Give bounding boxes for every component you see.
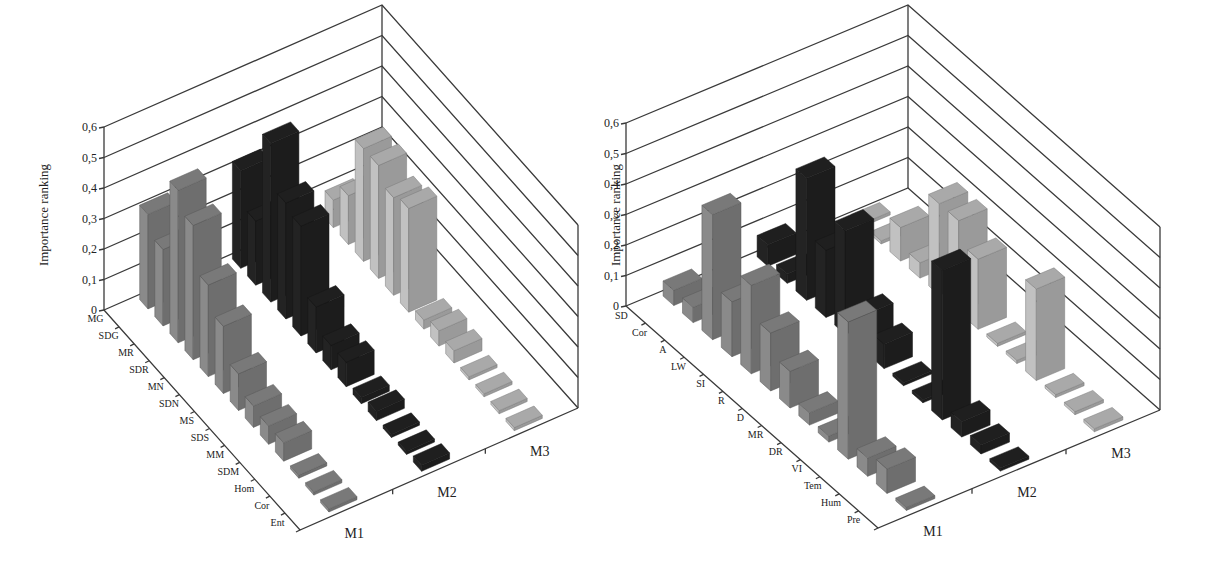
bar-m3-mr [987, 322, 1026, 346]
category-tick [680, 357, 684, 359]
category-label: Hum [821, 497, 841, 508]
bar-side [978, 247, 1006, 329]
bar-face [760, 324, 771, 391]
bar-m3-d [968, 238, 1007, 329]
y-tick-label: 0,5 [82, 151, 97, 165]
category-tick [816, 477, 820, 479]
category-tick [777, 443, 781, 445]
bar-m1-ent [321, 487, 357, 512]
category-tick [700, 374, 704, 376]
category-tick [874, 528, 878, 530]
category-tick [206, 428, 210, 430]
right-3d-bar-chart: 00,10,20,30,40,50,6Importance rankingSDC… [604, 5, 1160, 539]
bar-face [248, 212, 256, 285]
bar-side [848, 310, 876, 459]
category-tick [221, 445, 225, 447]
bar-side [409, 196, 437, 312]
bar-m2-mr [893, 361, 932, 385]
bar-face [702, 205, 713, 340]
bar-side [1036, 277, 1064, 380]
bar-face [1026, 280, 1037, 381]
bar-face [796, 169, 807, 300]
category-tick [160, 378, 164, 380]
y-tick [99, 280, 104, 281]
y-tick [99, 310, 104, 311]
category-label: VI [792, 463, 803, 474]
bar-face [215, 317, 223, 393]
bar-face [741, 276, 752, 374]
series-label-m3: M3 [530, 444, 549, 459]
y-tick-label: 0,6 [604, 116, 619, 130]
category-label: Pre [847, 514, 861, 525]
left-3d-bar-chart: 00,10,20,30,40,50,6Importance rankingMGS… [36, 5, 578, 541]
category-tick [296, 530, 300, 532]
category-tick [738, 408, 742, 410]
bar-m3-hum [1064, 390, 1103, 414]
y-tick-label: 0,1 [604, 269, 619, 283]
bar-m3-sdn [400, 187, 436, 312]
y-tick-label: 0,5 [604, 147, 619, 161]
category-label: Tem [804, 480, 822, 491]
category-label: SDR [129, 364, 149, 375]
bar-face [170, 181, 178, 343]
category-label: DR [769, 446, 783, 457]
bar-m1-cor [306, 470, 342, 495]
category-label: R [718, 395, 725, 406]
category-label: SDG [99, 330, 119, 341]
bar-face [932, 261, 943, 420]
bar-face [293, 217, 301, 336]
bar-m3-sdm [461, 355, 497, 380]
series-label-m2: M2 [1017, 485, 1036, 500]
category-tick [835, 494, 839, 496]
series-label-m2: M2 [437, 485, 456, 500]
category-tick [661, 340, 665, 342]
category-label: SDM [218, 466, 240, 477]
bar-m3-ent [506, 406, 542, 431]
y-axis-label: Importance ranking [36, 163, 51, 266]
bar-m3-cor [491, 389, 527, 414]
bar-face [385, 188, 393, 295]
category-tick [130, 344, 134, 346]
category-tick [251, 479, 255, 481]
category-label: MN [148, 381, 164, 392]
y-tick [621, 123, 626, 124]
bar-m3-tem [1045, 373, 1084, 397]
category-tick [281, 513, 285, 515]
bar-face [340, 186, 348, 244]
category-label: Hom [234, 483, 254, 494]
y-tick-label: 0,6 [82, 120, 97, 134]
bar-face [155, 240, 163, 326]
category-label: Cor [254, 500, 270, 511]
y-tick [621, 276, 626, 277]
bar-m2-hom [383, 413, 419, 438]
category-label: A [659, 344, 667, 355]
category-label: SDS [191, 432, 209, 443]
category-tick [115, 327, 119, 329]
category-label: Cor [632, 327, 648, 338]
chart-canvas: 00,10,20,30,40,50,6Importance rankingMGS… [0, 0, 1208, 562]
category-tick [758, 426, 762, 428]
bar-face [400, 199, 408, 312]
bar-face [370, 156, 378, 278]
category-label: SDN [159, 398, 179, 409]
series-label-m1: M1 [345, 526, 364, 541]
y-tick-label: 0,3 [82, 212, 97, 226]
y-tick-labels: 00,10,20,30,40,50,6 [82, 120, 104, 317]
y-tick [99, 158, 104, 159]
category-label: LW [671, 361, 686, 372]
category-tick [266, 496, 270, 498]
category-label: SD [615, 310, 628, 321]
y-tick [99, 127, 104, 128]
y-tick [99, 188, 104, 189]
category-label: MG [87, 313, 103, 324]
bar-face [232, 161, 240, 268]
series-label-m3: M3 [1111, 446, 1130, 461]
bar-face [355, 139, 363, 261]
bar-face [200, 276, 208, 377]
y-tick-label: 0,4 [82, 181, 97, 195]
bar-face [838, 313, 849, 460]
bar-face [140, 205, 148, 309]
category-tick [190, 412, 194, 414]
bar-m3-vi [1026, 268, 1065, 381]
bars [140, 122, 543, 512]
